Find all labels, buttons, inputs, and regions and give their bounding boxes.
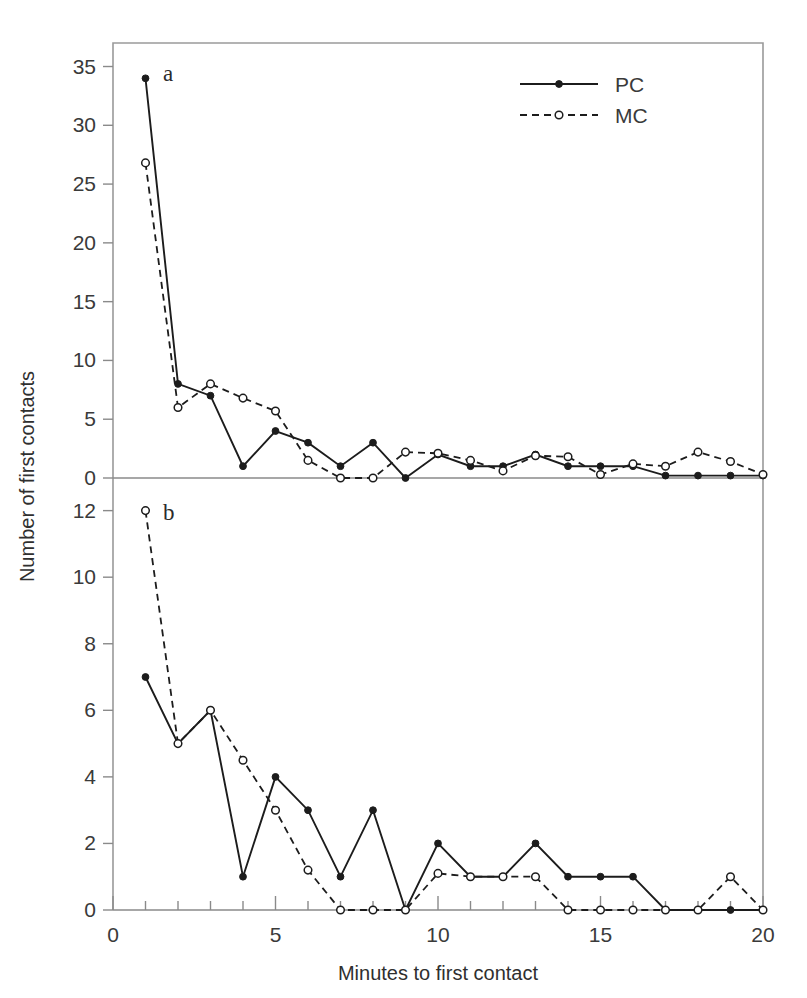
data-point-mc-panel-b <box>727 873 735 881</box>
x-tick-label: 15 <box>589 923 612 946</box>
data-point-pc-panel-a <box>695 472 702 479</box>
data-point-pc-panel-a <box>305 439 312 446</box>
data-point-mc-panel-a <box>402 448 410 456</box>
data-point-pc-panel-b <box>727 907 734 914</box>
y-tick-label-panel-a: 15 <box>73 290 96 313</box>
data-point-mc-panel-b <box>759 906 767 914</box>
y-tick-label-panel-b: 12 <box>73 499 96 522</box>
y-tick-label-panel-b: 0 <box>84 898 96 921</box>
x-tick-label: 5 <box>270 923 282 946</box>
y-tick-label-panel-b: 4 <box>84 765 96 788</box>
data-point-mc-panel-a <box>142 159 150 167</box>
y-tick-label-panel-b: 6 <box>84 698 96 721</box>
legend-label-mc: MC <box>615 104 648 127</box>
y-tick-label-panel-a: 25 <box>73 172 96 195</box>
y-tick-label-panel-a: 35 <box>73 55 96 78</box>
data-point-mc-panel-b <box>597 906 605 914</box>
panel-a-label: a <box>163 61 173 86</box>
data-point-mc-panel-a <box>564 453 572 461</box>
data-point-mc-panel-a <box>174 404 182 412</box>
x-tick-label: 10 <box>426 923 449 946</box>
data-point-mc-panel-b <box>694 906 702 914</box>
data-point-pc-panel-b <box>565 873 572 880</box>
data-point-mc-panel-a <box>727 458 735 466</box>
data-point-mc-panel-b <box>142 507 150 515</box>
data-point-mc-panel-b <box>662 906 670 914</box>
y-tick-label-panel-b: 10 <box>73 565 96 588</box>
data-point-pc-panel-a <box>597 463 604 470</box>
data-point-mc-panel-a <box>694 448 702 456</box>
y-tick-label-panel-a: 10 <box>73 348 96 371</box>
data-point-mc-panel-a <box>337 474 345 482</box>
legend-marker-mc <box>555 111 563 119</box>
data-point-mc-panel-b <box>272 806 280 814</box>
data-point-pc-panel-b <box>337 873 344 880</box>
y-tick-label-panel-b: 2 <box>84 831 96 854</box>
data-point-mc-panel-a <box>662 462 670 470</box>
data-point-mc-panel-b <box>369 906 377 914</box>
data-point-pc-panel-a <box>240 463 247 470</box>
data-point-mc-panel-b <box>337 906 345 914</box>
data-point-pc-panel-a <box>727 472 734 479</box>
y-tick-label-panel-a: 30 <box>73 113 96 136</box>
data-point-pc-panel-a <box>175 381 182 388</box>
data-point-pc-panel-b <box>630 873 637 880</box>
data-point-mc-panel-a <box>207 380 215 388</box>
figure-container: 0510152025303502468101205101520Minutes t… <box>0 0 807 998</box>
data-point-mc-panel-a <box>272 407 280 415</box>
data-point-mc-panel-b <box>239 756 247 764</box>
data-point-mc-panel-a <box>467 457 475 465</box>
data-point-mc-panel-b <box>434 870 442 878</box>
scientific-line-chart: 0510152025303502468101205101520Minutes t… <box>0 0 807 998</box>
data-point-mc-panel-a <box>532 452 540 460</box>
legend-label-pc: PC <box>615 73 644 96</box>
data-point-mc-panel-b <box>564 906 572 914</box>
series-line-mc-panel-a <box>146 163 764 478</box>
data-point-mc-panel-b <box>499 873 507 881</box>
data-point-pc-panel-b <box>597 873 604 880</box>
data-point-mc-panel-b <box>304 866 312 874</box>
data-point-mc-panel-b <box>467 873 475 881</box>
data-point-pc-panel-a <box>662 472 669 479</box>
data-point-pc-panel-a <box>272 428 279 435</box>
data-point-pc-panel-a <box>207 392 214 399</box>
y-tick-label-panel-a: 5 <box>84 407 96 430</box>
data-point-mc-panel-a <box>759 471 767 479</box>
data-point-pc-panel-a <box>337 463 344 470</box>
data-point-mc-panel-b <box>532 873 540 881</box>
data-point-mc-panel-a <box>597 471 605 479</box>
data-point-pc-panel-b <box>142 674 149 681</box>
data-point-mc-panel-a <box>629 460 637 468</box>
x-tick-label: 20 <box>751 923 774 946</box>
data-point-mc-panel-b <box>629 906 637 914</box>
x-tick-label: 0 <box>107 923 119 946</box>
data-point-pc-panel-b <box>305 807 312 814</box>
panel-b-label: b <box>163 500 175 525</box>
data-point-pc-panel-b <box>532 840 539 847</box>
y-axis-title: Number of first contacts <box>16 371 38 582</box>
data-point-pc-panel-a <box>565 463 572 470</box>
data-point-mc-panel-b <box>174 740 182 748</box>
x-axis-title: Minutes to first contact <box>338 962 539 984</box>
series-line-pc-panel-a <box>146 78 764 478</box>
y-tick-label-panel-a: 0 <box>84 466 96 489</box>
data-point-pc-panel-b <box>272 774 279 781</box>
data-point-pc-panel-a <box>142 75 149 82</box>
data-point-pc-panel-b <box>370 807 377 814</box>
data-point-pc-panel-a <box>370 439 377 446</box>
data-point-mc-panel-a <box>499 467 507 475</box>
data-point-mc-panel-a <box>239 394 247 402</box>
data-point-mc-panel-a <box>304 457 312 465</box>
data-point-mc-panel-a <box>434 450 442 458</box>
y-tick-label-panel-a: 20 <box>73 231 96 254</box>
legend-marker-pc <box>556 81 563 88</box>
data-point-mc-panel-a <box>369 474 377 482</box>
data-point-mc-panel-b <box>402 906 410 914</box>
y-tick-label-panel-b: 8 <box>84 632 96 655</box>
data-point-pc-panel-b <box>435 840 442 847</box>
data-point-pc-panel-b <box>240 873 247 880</box>
data-point-mc-panel-b <box>207 707 215 715</box>
data-point-pc-panel-a <box>402 475 409 482</box>
